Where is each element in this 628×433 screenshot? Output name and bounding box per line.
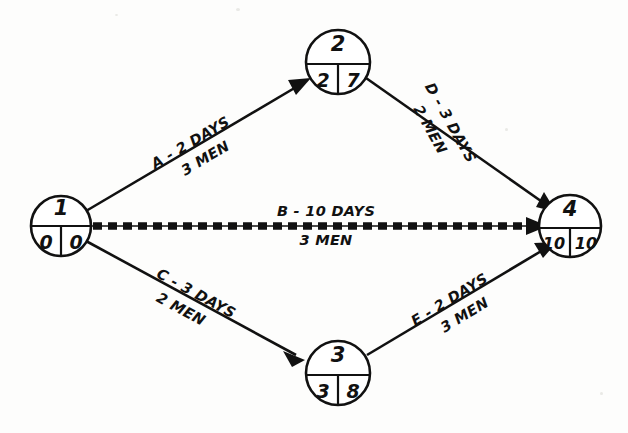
edge-b-duration-label: B - 10 DAYS <box>277 203 375 219</box>
node-2-latest-time: 7 <box>346 69 360 91</box>
node-2-event-number: 2 <box>331 32 346 56</box>
edge-a-arrowhead <box>288 78 311 95</box>
node-2[interactable]: 2 2 7 <box>306 30 370 94</box>
edge-a-label: A - 2 DAYS 3 MEN <box>148 113 243 190</box>
edge-c-group[interactable] <box>86 241 305 367</box>
network-diagram-canvas: 1 0 0 2 2 7 3 3 8 4 10 <box>0 0 628 433</box>
node-4-latest-time: 10 <box>575 234 597 253</box>
node-4[interactable]: 4 10 10 <box>539 195 601 257</box>
edge-d-label: D - 3 DAYS 2 MEN <box>404 80 480 176</box>
node-3-latest-time: 8 <box>346 380 359 402</box>
node-1-event-number: 1 <box>54 196 69 220</box>
edge-e-label: E - 2 DAYS 3 MEN <box>408 270 501 347</box>
node-1-earliest-time: 0 <box>39 231 52 253</box>
node-1[interactable]: 1 0 0 <box>31 196 91 256</box>
node-4-earliest-time: 10 <box>543 234 565 253</box>
node-3-event-number: 3 <box>331 343 346 367</box>
node-4-event-number: 4 <box>562 197 578 221</box>
node-2-earliest-time: 2 <box>316 69 329 91</box>
node-3-earliest-time: 3 <box>316 380 329 402</box>
edge-b-resource-label: 3 MEN <box>299 232 352 248</box>
node-3[interactable]: 3 3 8 <box>306 341 370 405</box>
node-1-latest-time: 0 <box>69 231 82 253</box>
network-svg: 1 0 0 2 2 7 3 3 8 4 10 <box>0 0 628 433</box>
edge-c-label: C - 3 DAYS 2 MEN <box>144 265 238 339</box>
